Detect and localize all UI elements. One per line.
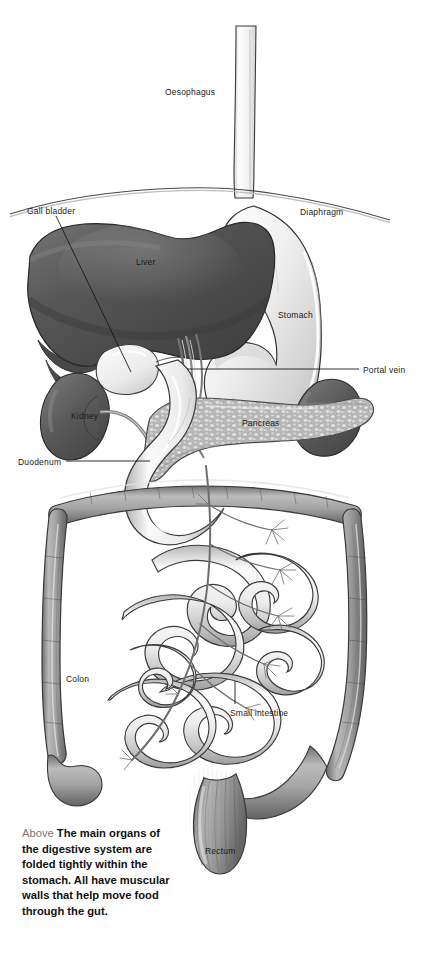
label-oesophagus: Oesophagus bbox=[165, 88, 215, 97]
oesophagus-organ bbox=[234, 26, 256, 198]
label-rectum: Rectum bbox=[205, 847, 236, 856]
label-portal-vein: Portal vein bbox=[363, 366, 405, 375]
label-diaphragm: Diaphragm bbox=[300, 208, 343, 217]
label-colon: Colon bbox=[66, 675, 89, 684]
label-duodenum: Duodenum bbox=[18, 458, 61, 467]
figure-caption: Above The main organs of the digestive s… bbox=[22, 826, 174, 920]
caption-body: The main organs of the digestive system … bbox=[22, 827, 170, 917]
small-intestine-organ bbox=[108, 545, 324, 768]
label-gall-bladder: Gall bladder bbox=[27, 207, 75, 216]
label-small-intestine: Small intestine bbox=[230, 709, 288, 718]
caption-lead-word: Above bbox=[22, 827, 54, 839]
label-stomach: Stomach bbox=[278, 311, 313, 320]
label-liver: Liver bbox=[136, 258, 155, 267]
digestive-system-figure: Oesophagus Gall bladder Diaphragm Liver … bbox=[0, 0, 422, 975]
label-pancreas: Pancreas bbox=[242, 419, 280, 428]
rectum-organ bbox=[180, 760, 260, 885]
label-kidney: Kidney bbox=[71, 412, 98, 421]
